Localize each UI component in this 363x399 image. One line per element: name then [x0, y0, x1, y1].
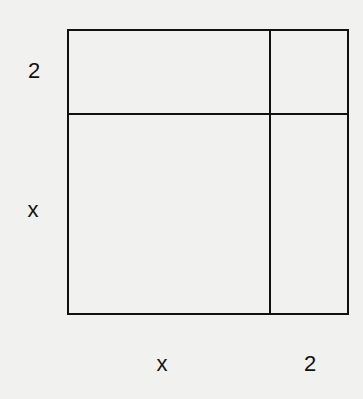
- label-bottom-left: x: [157, 351, 168, 377]
- vertical-divider: [269, 31, 271, 313]
- label-bottom-right: 2: [304, 351, 316, 377]
- area-model-square: [67, 29, 349, 315]
- label-left-bottom: x: [28, 197, 39, 223]
- label-left-top: 2: [28, 58, 40, 84]
- horizontal-divider: [69, 113, 347, 115]
